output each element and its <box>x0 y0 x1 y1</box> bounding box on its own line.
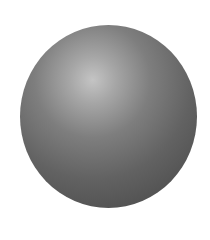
gray-sphere <box>20 25 197 208</box>
